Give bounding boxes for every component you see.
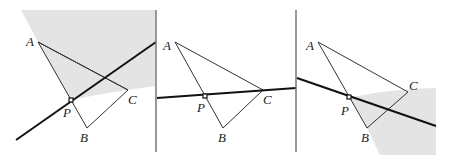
shaded-region-1 [21,10,155,100]
label-a-1: A [25,34,34,49]
triangle-abc-2 [175,42,263,128]
label-c-2: C [263,92,272,107]
label-b-1: B [80,130,88,145]
diagram-canvas: A P B C A P B C A P B C [0,0,449,159]
label-a-2: A [162,38,171,53]
label-p-1: P [62,105,71,120]
label-a-3: A [305,38,314,53]
panel-2: A P B C [157,38,296,145]
point-p-3 [347,95,351,99]
panel-1: A P B C [16,10,156,145]
label-b-2: B [218,130,226,145]
label-c-1: C [128,92,137,107]
panel-3: A P B C [297,38,436,155]
point-p-1 [69,98,73,102]
label-p-2: P [196,100,205,115]
label-p-3: P [340,103,349,118]
label-c-3: C [409,78,418,93]
point-p-2 [203,94,207,98]
label-b-3: B [361,130,369,145]
line-through-p-2 [157,88,296,98]
